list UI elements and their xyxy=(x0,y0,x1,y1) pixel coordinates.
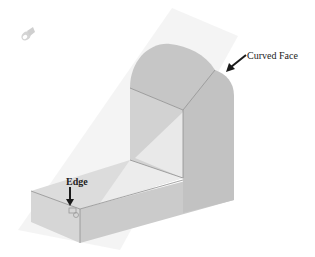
selection-cursor-icon xyxy=(20,27,35,42)
curved-face-arrow xyxy=(226,55,246,72)
edge-label: Edge xyxy=(66,176,88,187)
curved-face-label: Curved Face xyxy=(247,50,298,61)
l-bracket-diagram xyxy=(0,0,315,257)
